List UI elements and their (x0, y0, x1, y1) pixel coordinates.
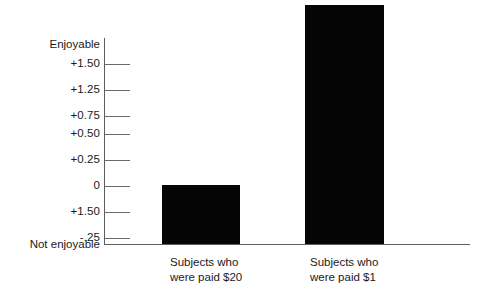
y-axis-tick-label: +0.75 (4, 110, 100, 122)
category-label-paid-20: Subjects who were paid $20 (170, 255, 242, 285)
y-axis-top-anchor-label: Enjoyable (0, 38, 100, 50)
y-axis-bottom-anchor-label: Not enjoyable (0, 238, 100, 250)
category-label-paid-1: Subjects who were paid $1 (310, 255, 378, 285)
category-label-line: were paid $20 (170, 270, 242, 285)
y-axis-tick-label: +1.50 (4, 58, 100, 70)
y-axis-tick (105, 160, 130, 161)
y-axis-tick (105, 238, 130, 239)
y-axis-tick-label: 0 (4, 180, 100, 192)
x-axis-baseline (104, 244, 470, 245)
bar-paid-1 (305, 5, 384, 244)
y-axis-tick-label: +0.50 (4, 128, 100, 140)
category-label-line: were paid $1 (310, 270, 378, 285)
y-axis-tick-label: +1.25 (4, 84, 100, 96)
y-axis-tick (105, 116, 130, 117)
y-axis-line (104, 38, 105, 245)
bar-paid-20 (162, 185, 240, 244)
y-axis-tick (105, 212, 130, 213)
bar-chart: Enjoyable +1.50 +1.25 +0.75 +0.50 +0.25 … (0, 0, 491, 306)
y-axis-tick (105, 64, 130, 65)
y-axis-tick (105, 186, 130, 187)
y-axis-tick (105, 134, 130, 135)
y-axis-tick (105, 90, 130, 91)
y-axis-tick-label: +0.25 (4, 154, 100, 166)
category-label-line: Subjects who (170, 255, 242, 270)
y-axis-tick-label: +1.50 (4, 206, 100, 218)
category-label-line: Subjects who (310, 255, 378, 270)
